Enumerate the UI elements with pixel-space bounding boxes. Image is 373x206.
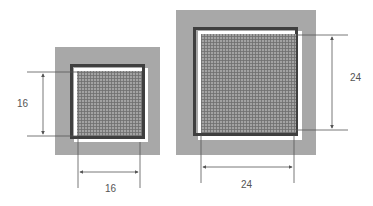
large-grid: [201, 34, 296, 133]
large-height-label: 24: [350, 72, 362, 83]
small-height-label: 16: [17, 98, 29, 109]
small-grid: [77, 71, 142, 136]
small-width-label: 16: [105, 183, 117, 194]
small-square-group: 16 16: [17, 47, 160, 194]
large-width-label: 24: [241, 179, 253, 190]
large-square-group: 24 24: [176, 10, 362, 190]
diagram-canvas: 16 16 24 24: [0, 0, 373, 206]
